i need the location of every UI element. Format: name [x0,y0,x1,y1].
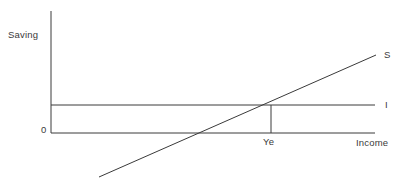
saving-curve-label: S [384,49,391,60]
equilibrium-income-label: Ye [263,136,274,147]
y-axis-label: Saving [8,29,38,40]
x-axis-label: Income [356,137,388,148]
origin-label: 0 [41,124,46,135]
saving-curve-line [99,55,376,177]
diagram-canvas [0,0,405,183]
investment-curve-label: I [385,99,388,110]
saving-investment-diagram: Saving 0 Ye Income S I [0,0,405,183]
